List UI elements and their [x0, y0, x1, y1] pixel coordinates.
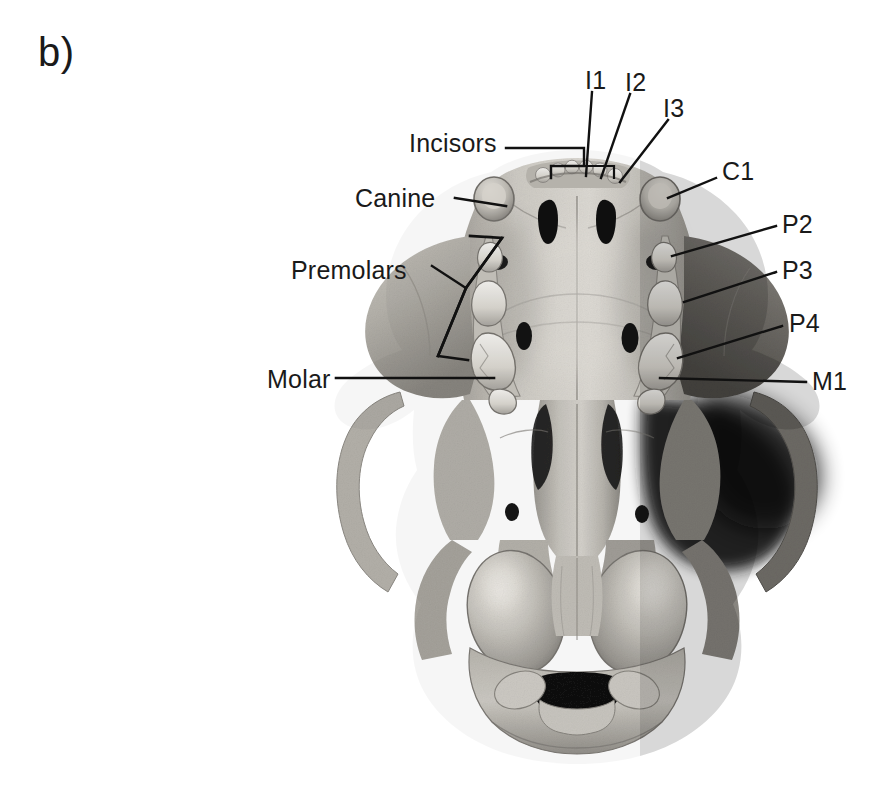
skull-photograph: [330, 140, 830, 780]
label-m1: M1: [812, 369, 847, 394]
label-p3: P3: [782, 258, 813, 283]
figure-panel: b) Incisors Canine Premolars Molar I1 I2…: [0, 0, 885, 789]
label-c1: C1: [722, 159, 754, 184]
label-molar: Molar: [267, 367, 331, 392]
panel-letter: b): [38, 32, 75, 72]
label-i3: I3: [663, 96, 684, 121]
skull-illustration: [0, 0, 885, 789]
label-i2: I2: [625, 70, 646, 95]
label-incisors: Incisors: [409, 131, 497, 156]
label-p4: P4: [789, 311, 820, 336]
label-premolars: Premolars: [291, 258, 407, 283]
label-i1: I1: [585, 68, 606, 93]
label-canine: Canine: [355, 186, 435, 211]
label-p2: P2: [782, 212, 813, 237]
